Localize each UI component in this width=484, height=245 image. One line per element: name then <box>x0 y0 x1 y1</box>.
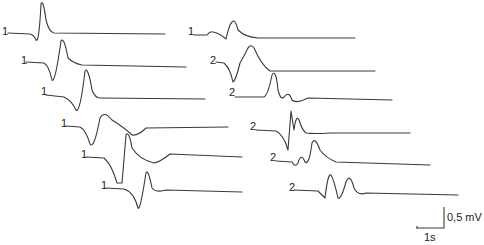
trace-labels: 1 1 1 1 1 1 1 2 2 2 2 2 <box>2 25 295 193</box>
trace-left-4 <box>66 114 228 145</box>
trace-label: 1 <box>41 85 47 97</box>
trace-left-5 <box>86 134 242 183</box>
scale-voltage-label: 0,5 mV <box>447 211 483 223</box>
trace-right-1 <box>194 21 355 39</box>
trace-right-5 <box>276 141 430 166</box>
trace-label: 1 <box>2 25 8 37</box>
trace-label: 2 <box>210 54 216 66</box>
trace-label: 1 <box>21 54 27 66</box>
trace-left-2 <box>26 40 186 80</box>
trace-right-4 <box>256 111 410 150</box>
scale-time-label: 1s <box>424 231 436 243</box>
trace-label: 2 <box>229 86 235 98</box>
electrogram-figure: 1 1 1 1 1 1 1 2 2 2 2 2 0,5 mV 1s <box>0 0 484 245</box>
scale-bar-lines <box>417 207 444 228</box>
trace-label: 2 <box>289 181 295 193</box>
trace-right-6 <box>294 175 458 199</box>
left-column-traces <box>8 3 242 209</box>
trace-left-3 <box>46 70 205 110</box>
right-column-traces <box>194 21 458 198</box>
trace-label: 2 <box>270 151 276 163</box>
trace-left-6 <box>106 172 242 208</box>
trace-right-2 <box>216 46 375 82</box>
trace-label: 1 <box>101 179 107 191</box>
trace-right-3 <box>235 73 392 101</box>
trace-left-1 <box>8 3 165 41</box>
trace-label: 2 <box>250 120 256 132</box>
scale-bar: 0,5 mV 1s <box>417 207 483 243</box>
trace-label: 1 <box>188 25 194 37</box>
trace-label: 1 <box>81 148 87 160</box>
trace-label: 1 <box>61 117 67 129</box>
